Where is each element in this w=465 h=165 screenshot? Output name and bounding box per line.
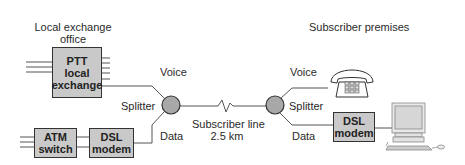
left-splitter-label: Splitter <box>121 100 155 112</box>
left-data-label: Data <box>160 130 183 142</box>
telephone-icon <box>331 70 373 97</box>
ptt-line3: exchange <box>52 79 103 91</box>
dsl-left-line2: modem <box>92 143 131 155</box>
left-site-title: Local exchange office <box>18 21 128 45</box>
dsl-right-line1: DSL <box>334 115 373 127</box>
ptt-line1: PTT <box>52 55 103 67</box>
dsl-modem-right-box: DSL modem <box>333 112 375 142</box>
dsl-right-line2: modem <box>334 127 373 139</box>
right-voice-label: Voice <box>290 66 317 78</box>
left-site-title-line1: Local exchange <box>18 21 128 33</box>
left-voice-label: Voice <box>160 66 187 78</box>
dsl-left-line1: DSL <box>92 131 131 143</box>
subscriber-line-label-line1: Subscriber line <box>192 118 262 130</box>
subscriber-line-label-line2: 2.5 km <box>192 130 262 142</box>
atm-line1: ATM <box>38 131 72 143</box>
dsl-modem-left-box: DSL modem <box>89 128 134 158</box>
ptt-local-exchange-box: PTT local exchange <box>52 47 102 98</box>
atm-line2: switch <box>38 143 72 155</box>
right-site-title: Subscriber premises <box>309 21 409 33</box>
left-splitter-node <box>162 96 180 114</box>
computer-icon <box>386 103 445 150</box>
right-splitter-label: Splitter <box>289 100 323 112</box>
left-site-title-line2: office <box>18 33 128 45</box>
atm-switch-box: ATM switch <box>34 128 77 158</box>
right-data-label: Data <box>292 130 315 142</box>
subscriber-line-label: Subscriber line 2.5 km <box>192 118 262 142</box>
ptt-line2: local <box>52 67 103 79</box>
right-splitter-node <box>266 96 284 114</box>
